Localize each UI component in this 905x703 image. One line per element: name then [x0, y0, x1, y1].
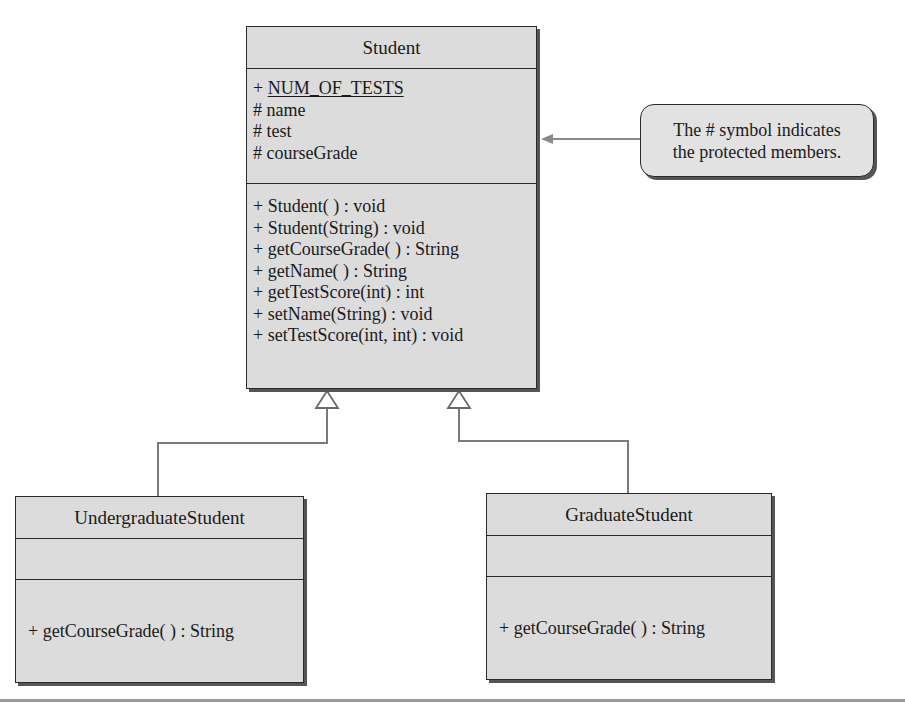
operation-get-course-grade: + getCourseGrade( ) : String: [247, 239, 536, 261]
generalization-triangle-icon-left: [316, 391, 338, 408]
callout-note: The # symbol indicates the protected mem…: [640, 104, 874, 177]
bottom-divider: [0, 699, 905, 702]
class-graduate-operations: + getCourseGrade( ) : String: [487, 577, 771, 640]
operation-student-default: + Student( ) : void: [247, 196, 536, 218]
callout-line-2: the protected members.: [673, 141, 841, 163]
operation-get-test-score: + getTestScore(int) : int: [247, 282, 536, 304]
operation-set-test-score: + setTestScore(int, int) : void: [247, 325, 536, 347]
callout-line-1: The # symbol indicates: [673, 119, 840, 141]
operation-set-name: + setName(String) : void: [247, 304, 536, 326]
class-undergraduate-operations: + getCourseGrade( ) : String: [16, 580, 303, 643]
class-name: Student: [362, 37, 420, 59]
class-graduate-attributes: [487, 536, 771, 577]
class-name: GraduateStudent: [565, 504, 693, 526]
attribute-course-grade: # courseGrade: [247, 143, 536, 165]
attribute-num-of-tests: + NUM_OF_TESTS: [247, 78, 536, 100]
operation-get-course-grade: + getCourseGrade( ) : String: [487, 618, 771, 640]
class-student[interactable]: Student + NUM_OF_TESTS # name # test # c…: [246, 26, 537, 389]
generalization-line-graduate: [459, 408, 628, 494]
operation-get-name: + getName( ) : String: [247, 261, 536, 283]
operation-get-course-grade: + getCourseGrade( ) : String: [16, 621, 303, 643]
class-student-operations: + Student( ) : void + Student(String) : …: [247, 184, 536, 347]
generalization-line-undergraduate: [158, 408, 327, 496]
class-graduate-student[interactable]: GraduateStudent + getCourseGrade( ) : St…: [486, 493, 772, 680]
class-undergraduate-name-section: UndergraduateStudent: [16, 497, 303, 539]
class-undergraduate-student[interactable]: UndergraduateStudent + getCourseGrade( )…: [15, 496, 304, 683]
class-name: UndergraduateStudent: [74, 507, 245, 529]
class-graduate-name-section: GraduateStudent: [487, 494, 771, 536]
attribute-name: # name: [247, 100, 536, 122]
operation-student-string: + Student(String) : void: [247, 218, 536, 240]
attribute-test: # test: [247, 121, 536, 143]
class-student-attributes: + NUM_OF_TESTS # name # test # courseGra…: [247, 69, 536, 184]
static-attribute-name: NUM_OF_TESTS: [268, 78, 404, 98]
visibility-marker: +: [253, 78, 268, 98]
class-undergraduate-attributes: [16, 539, 303, 580]
generalization-triangle-icon-right: [448, 391, 470, 408]
callout-arrowhead-icon: [541, 134, 553, 144]
class-student-name-section: Student: [247, 27, 536, 69]
